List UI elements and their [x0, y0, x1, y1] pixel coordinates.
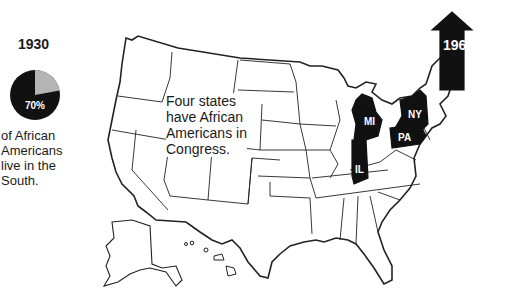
- state-in: [352, 140, 368, 184]
- state-label-il: IL: [355, 164, 364, 175]
- year-1960-label: 1960: [443, 37, 474, 53]
- state-label-mi: MI: [364, 116, 375, 127]
- us-map: [0, 0, 515, 303]
- note-line: have African: [166, 109, 247, 125]
- note-line: Congress.: [166, 141, 247, 157]
- note-line: Four states: [166, 93, 247, 109]
- state-label-ny: NY: [408, 109, 422, 120]
- state-label-pa: PA: [398, 132, 411, 143]
- congress-note: Four states have African Americans in Co…: [166, 93, 247, 157]
- note-line: Americans in: [166, 125, 247, 141]
- alaska-outline: [104, 220, 182, 286]
- hawaii-outline: [185, 241, 237, 276]
- us-outline: [108, 36, 458, 284]
- state-borders: [112, 52, 430, 244]
